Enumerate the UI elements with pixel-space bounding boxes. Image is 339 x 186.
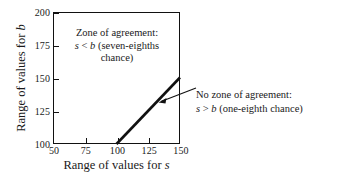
zone-var-b: b: [90, 40, 95, 51]
x-tick-125: [149, 138, 150, 143]
zone-of-agreement-line1: Zone of agreement:: [56, 27, 178, 40]
no-zone-var-s: s: [196, 103, 200, 114]
zone-var-s: s: [75, 40, 79, 51]
no-zone-of-agreement-annotation: No zone of agreement: s > b (one-eighth …: [196, 88, 339, 115]
x-tick-label-50: 50: [49, 146, 59, 156]
x-tick-label-100: 100: [110, 146, 125, 156]
zone-operator: <: [82, 40, 88, 51]
x-axis-title-text: Range of values for: [63, 158, 161, 172]
y-axis-title-text: Range of values for: [14, 34, 28, 132]
y-tick-200: [54, 13, 59, 14]
zone-tail: (seven-eighths: [98, 40, 159, 51]
x-axis-title-variable: s: [165, 158, 170, 172]
y-tick-label-125: 125: [35, 107, 50, 117]
y-tick-150: [54, 79, 59, 80]
zone-of-agreement-line2: s < b (seven-eighths: [56, 40, 178, 53]
x-tick-75: [86, 138, 87, 143]
no-zone-line2: s > b (one-eighth chance): [196, 102, 339, 116]
x-tick-label-150: 150: [173, 146, 188, 156]
y-tick-label-150: 150: [35, 74, 50, 84]
x-tick-100: [118, 138, 119, 143]
x-axis-title: Range of values for s: [53, 158, 180, 172]
zone-of-agreement-line3: chance): [56, 52, 178, 65]
y-axis-title: Range of values for b: [14, 8, 28, 148]
figure-container: 200 175 150 125 100 50 75 100 125 150 Ra…: [0, 0, 339, 186]
y-axis-title-variable: b: [14, 24, 28, 30]
x-tick-label-125: 125: [142, 146, 157, 156]
zone-of-agreement-annotation: Zone of agreement: s < b (seven-eighths …: [56, 27, 178, 65]
no-zone-line1: No zone of agreement:: [196, 88, 339, 102]
no-zone-operator: >: [203, 103, 209, 114]
no-zone-var-b: b: [211, 103, 216, 114]
x-tick-label-75: 75: [81, 146, 91, 156]
y-tick-label-200: 200: [35, 8, 50, 18]
y-tick-label-100: 100: [35, 140, 50, 150]
y-tick-label-175: 175: [35, 41, 50, 51]
y-tick-125: [54, 112, 59, 113]
no-zone-tail: (one-eighth chance): [219, 103, 303, 114]
